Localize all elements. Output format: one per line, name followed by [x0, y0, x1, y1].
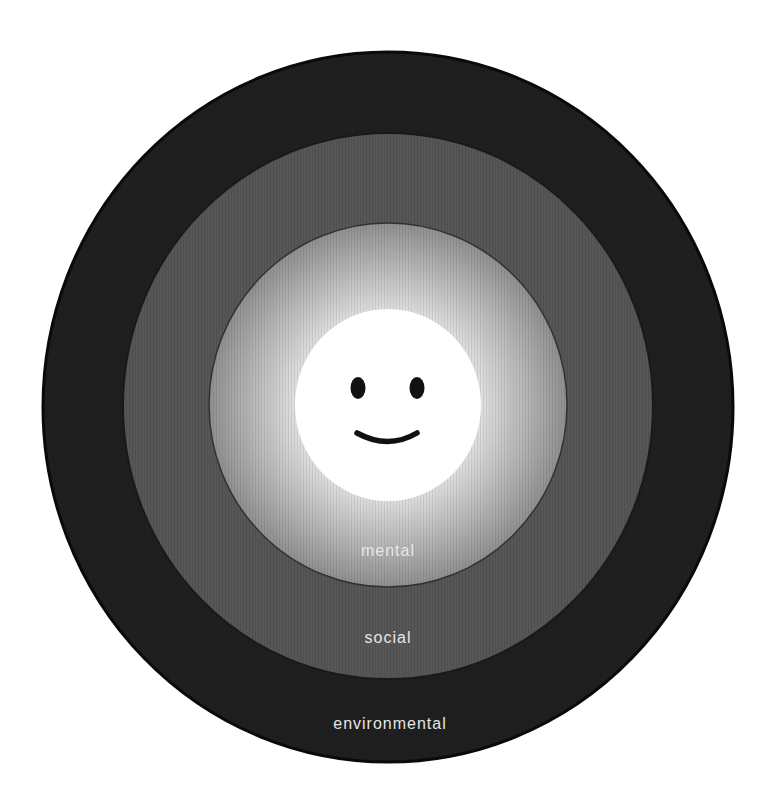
- label-environmental: environmental: [333, 715, 447, 732]
- right-eye-icon: [410, 377, 425, 399]
- wellbeing-concentric-diagram: mental social environmental: [0, 0, 770, 802]
- label-mental: mental: [361, 542, 415, 559]
- left-eye-icon: [351, 377, 366, 399]
- core-face: [295, 309, 481, 501]
- label-social: social: [365, 629, 412, 646]
